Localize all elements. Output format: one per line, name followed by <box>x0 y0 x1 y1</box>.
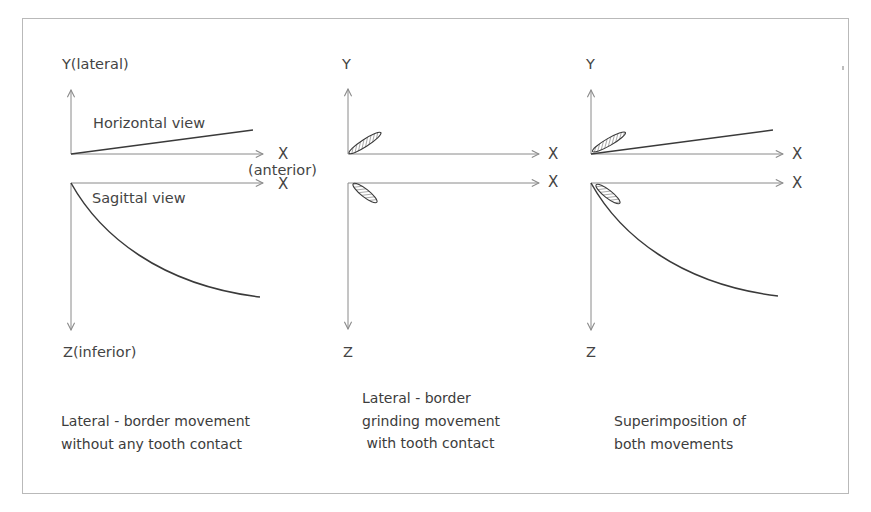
horizontal-grinding-loop <box>347 130 383 157</box>
caption-line: both movements <box>614 433 746 456</box>
caption-line: without any tooth contact <box>61 433 250 456</box>
horizontal-grinding-loop <box>591 129 628 154</box>
horizontal-view-label: Horizontal view <box>93 116 205 131</box>
caption-line: with tooth contact <box>362 432 500 455</box>
z-axis-label: Z(inferior) <box>63 345 136 360</box>
caption-line: grinding movement <box>362 410 500 433</box>
horizontal-border-path <box>71 130 253 154</box>
caption-line: Lateral - border movement <box>61 410 250 433</box>
caption-with-contact: Lateral - border grinding movement with … <box>362 387 500 455</box>
caption-superimposition: Superimposition of both movements <box>614 410 746 455</box>
sagittal-grinding-loop <box>351 181 380 206</box>
sagittal-view-label: Sagittal view <box>92 191 186 206</box>
y-axis-label: Y <box>586 57 595 72</box>
y-axis-label: Y(lateral) <box>62 57 129 72</box>
panel-with-contact <box>347 89 539 329</box>
panel-superimposition <box>591 90 783 330</box>
y-axis-label: Y <box>342 57 351 72</box>
x-axis-label: X <box>278 177 288 192</box>
z-axis-label: Z <box>343 345 353 360</box>
z-axis-label: Z <box>586 345 596 360</box>
x-axis-label: X <box>792 147 802 162</box>
x-axis-label: X <box>548 147 558 162</box>
x-axis-label: X <box>548 175 558 190</box>
caption-line: Lateral - border <box>362 387 500 410</box>
caption-without-contact: Lateral - border movement without any to… <box>61 410 250 455</box>
caption-line: Superimposition of <box>614 410 746 433</box>
x-axis-label: X <box>278 147 288 162</box>
x-axis-label: X <box>792 176 802 191</box>
